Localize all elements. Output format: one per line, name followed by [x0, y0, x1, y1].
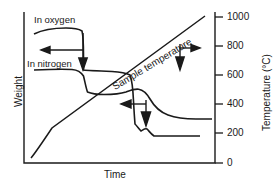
tick-label-1000: 1000 [227, 12, 249, 22]
label-in-oxygen: In oxygen [34, 15, 75, 25]
label-in-nitrogen: In nitrogen [27, 59, 72, 69]
right-axis-ticks [215, 17, 223, 163]
tick-label-800: 800 [227, 41, 244, 51]
tick-label-0: 0 [227, 158, 233, 168]
tick-label-200: 200 [227, 128, 244, 138]
arrow-oxygen-down [79, 33, 87, 70]
arrow-oxygen-to-weight-axis [41, 47, 83, 54]
tick-label-600: 600 [227, 70, 244, 80]
y2-axis-title-temperature: Temperature (°C) [262, 54, 272, 131]
x-axis-title-time: Time [104, 170, 126, 180]
y-axis-title-weight: Weight [14, 76, 24, 107]
tick-label-400: 400 [227, 99, 244, 109]
tga-thermogram-figure: 1000 800 600 400 200 0 Weight Time Tempe… [0, 0, 274, 186]
